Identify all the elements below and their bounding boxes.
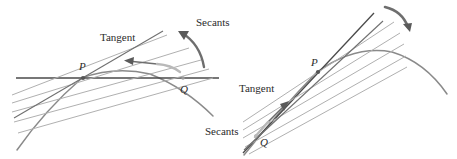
right-point-q-label: Q: [260, 136, 268, 148]
left-point-p-marker: [81, 76, 85, 80]
secant-tangent-figure: Tangent Secants P Q: [0, 0, 457, 159]
left-point-q-marker: [181, 76, 185, 80]
left-panel: Tangent Secants P Q: [12, 16, 230, 150]
right-tangent-label: Tangent: [239, 82, 274, 94]
right-rotation-arrow: [385, 7, 412, 32]
right-point-p-label: P: [310, 56, 318, 68]
left-point-q-label: Q: [180, 83, 188, 95]
right-secants-label: Secants: [205, 125, 239, 137]
left-rotation-arrow: [178, 31, 204, 67]
left-secants-label: Secants: [196, 16, 230, 28]
left-point-p-label: P: [78, 60, 86, 72]
right-point-p-marker: [316, 70, 320, 74]
left-tangent-label: Tangent: [100, 31, 135, 43]
right-panel: Tangent Secants P Q: [205, 7, 447, 155]
